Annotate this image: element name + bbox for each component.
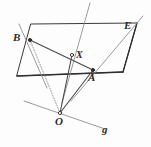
- label-point-o: O: [55, 116, 63, 127]
- line-g: [24, 101, 105, 129]
- label-line-g: g: [102, 124, 108, 135]
- segment-BO: [30, 40, 60, 113]
- label-point-a: A: [88, 72, 95, 83]
- label-point-x: X: [76, 50, 83, 60]
- point-x-marker: [70, 53, 73, 56]
- ray-through-B: [19, 24, 47, 88]
- point-b-marker: [28, 38, 31, 41]
- segment-BA: [30, 40, 93, 70]
- label-point-b: B: [13, 32, 20, 43]
- geometry-diagram: B X A E O g: [0, 0, 151, 147]
- label-plane-e: E: [124, 20, 131, 31]
